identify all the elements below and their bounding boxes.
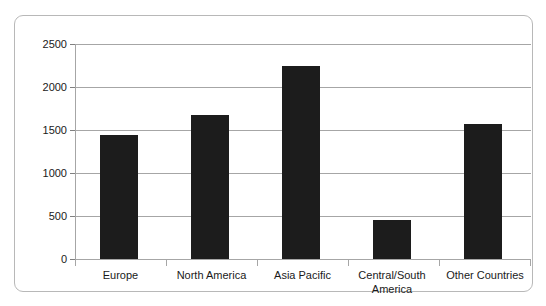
y-axis-label-1000: 1000 <box>43 168 67 179</box>
category-tick-2 <box>166 260 167 266</box>
bar-asia-pacific[interactable] <box>282 66 320 259</box>
category-tick-6 <box>530 260 531 266</box>
x-axis-label-north-america: North America <box>166 268 257 282</box>
category-tick-1 <box>75 260 76 266</box>
plot-area <box>75 44 531 259</box>
y-axis-label-2000: 2000 <box>43 82 67 93</box>
gridline-2500 <box>75 44 531 45</box>
category-tick-5 <box>439 260 440 266</box>
bar-other-countries[interactable] <box>464 124 502 259</box>
x-axis-label-other-countries: Other Countries <box>439 268 531 282</box>
x-axis-label-asia-pacific: Asia Pacific <box>257 268 348 282</box>
y-axis-label-500: 500 <box>49 211 67 222</box>
x-axis-label-europe: Europe <box>75 268 166 282</box>
bar-europe[interactable] <box>100 135 138 259</box>
x-axis-label-central-south-america: Central/South America <box>348 268 436 296</box>
bar-central-south-america[interactable] <box>373 220 411 259</box>
x-axis-line <box>75 259 531 260</box>
y-axis-labels: 2500 2000 1500 1000 500 0 <box>15 16 67 291</box>
x-axis-labels: Europe North America Asia Pacific Centra… <box>75 268 531 302</box>
bar-north-america[interactable] <box>191 115 229 259</box>
category-tick-4 <box>348 260 349 266</box>
y-axis-label-2500: 2500 <box>43 39 67 50</box>
y-axis-label-0: 0 <box>61 254 67 265</box>
y-axis-label-1500: 1500 <box>43 125 67 136</box>
category-tick-3 <box>257 260 258 266</box>
chart-frame: 2500 2000 1500 1000 500 0 Europe North A… <box>14 15 533 292</box>
